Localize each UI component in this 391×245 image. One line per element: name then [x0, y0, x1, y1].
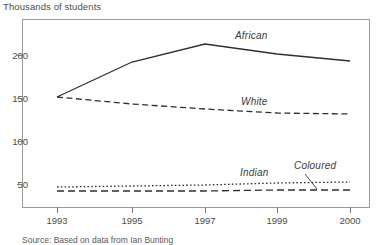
- source-note: Source: Based on data from Ian Bunting: [22, 235, 173, 245]
- series-line-white: [57, 97, 350, 114]
- series-line-indian: [57, 182, 350, 187]
- y-axis-ticks: [17, 56, 22, 185]
- series-line-african: [57, 44, 350, 97]
- series-line-coloured: [57, 190, 350, 191]
- x-axis-ticks: [58, 207, 351, 213]
- coloured-leader-line: [305, 174, 317, 189]
